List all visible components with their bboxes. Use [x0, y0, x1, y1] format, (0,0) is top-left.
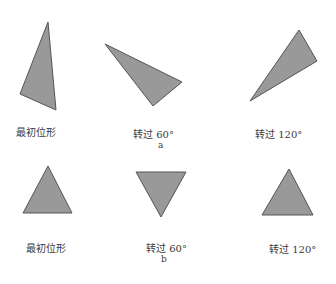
- label-b-rotated-60: 转过 60°: [146, 240, 187, 255]
- triangle-b-rotated-60: [136, 172, 186, 217]
- triangle-a-initial: [20, 22, 56, 110]
- triangle-b-rotated-120: [262, 169, 313, 215]
- triangle-a-rotated-60: [105, 44, 182, 106]
- label-b-rotated-120: 转过 120°: [269, 241, 316, 256]
- label-a-rotated-120: 转过 120°: [255, 126, 302, 141]
- label-a-rotated-60: 转过 60°: [133, 126, 174, 141]
- caption-a: a: [158, 140, 163, 150]
- triangle-b-initial: [23, 166, 72, 213]
- label-b-initial: 最初位形: [26, 240, 66, 255]
- label-a-initial: 最初位形: [16, 124, 56, 139]
- triangle-a-rotated-120: [250, 30, 317, 101]
- caption-b: b: [161, 254, 167, 264]
